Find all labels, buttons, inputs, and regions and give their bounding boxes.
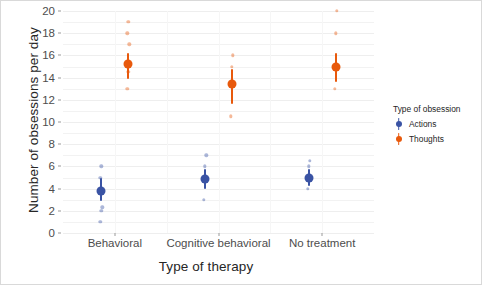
raw-data-point [307,165,310,168]
mean-point [124,60,133,69]
gridline-vertical [322,11,323,233]
y-axis-tick-mark [58,122,61,123]
mean-point [201,174,210,183]
raw-data-point [308,159,311,162]
y-axis-tick-label: 0 [49,227,55,239]
legend-title: Type of obsession [393,104,461,114]
y-axis-tick-mark [58,166,61,167]
x-axis-tick-label: Behavioral [88,237,142,249]
mean-point [331,62,340,71]
x-axis-title: Type of therapy [41,259,371,274]
legend-item-label: Actions [409,119,436,129]
y-axis-tick-mark [58,55,61,56]
y-axis-tick-mark [58,11,61,12]
legend-item-label: Thoughts [409,134,444,144]
legend-key-icon [393,118,404,130]
raw-data-point [126,87,129,90]
raw-data-point [335,9,338,12]
y-axis-tick-mark [58,77,61,78]
y-axis-tick-labels: 02468101214161820 [27,1,63,285]
raw-data-point [334,31,337,34]
raw-data-point [100,209,103,212]
raw-data-point [231,54,234,57]
gridline-vertical [115,11,116,233]
gridline-vertical [219,11,220,233]
legend: Type of obsession ActionsThoughts [393,104,461,148]
x-axis-tick-mark [322,233,323,236]
mean-point [227,80,236,89]
y-axis-tick-mark [58,188,61,189]
y-axis-tick-mark [58,33,61,34]
y-axis-tick-label: 10 [42,116,55,128]
raw-data-point [100,165,103,168]
y-axis-tick-mark [58,233,61,234]
y-axis-tick-mark [58,210,61,211]
raw-data-point [203,165,206,168]
legend-item-actions: Actions [393,118,461,130]
y-axis-tick-mark [58,99,61,100]
y-axis-tick-label: 14 [42,72,55,84]
legend-item-thoughts: Thoughts [393,133,461,145]
raw-data-point [202,198,205,201]
legend-key-icon [393,133,404,145]
raw-data-point [101,206,104,209]
x-axis-tick-mark [218,233,219,236]
x-axis-tick-label: Cognitive behavioral [166,237,270,249]
plot-panel [63,11,374,233]
raw-data-point [229,115,232,118]
y-axis-tick-label: 20 [42,5,55,17]
raw-data-point [127,20,130,23]
y-axis-tick-label: 4 [49,183,55,195]
gridline-vertical-minor [167,11,168,233]
raw-data-point [230,65,233,68]
mean-point [97,186,106,195]
y-axis-tick-mark [58,144,61,145]
raw-data-point [99,220,102,223]
raw-data-point [128,43,131,46]
gridline-vertical-minor [270,11,271,233]
y-axis-tick-label: 16 [42,49,55,61]
x-axis-tick-label: No treatment [289,237,355,249]
raw-data-point [333,87,336,90]
y-axis-tick-label: 12 [42,94,55,106]
raw-data-point [306,187,309,190]
raw-data-point [126,31,129,34]
x-axis-tick-mark [114,233,115,236]
raw-data-point [204,154,207,157]
chart-figure: Number of obsessions per day Type of the… [0,0,482,285]
y-axis-tick-label: 8 [49,138,55,150]
mean-point [304,173,313,182]
y-axis-tick-label: 6 [49,160,55,172]
legend-items: ActionsThoughts [393,118,461,145]
y-axis-tick-label: 18 [42,27,55,39]
y-axis-tick-label: 2 [49,205,55,217]
